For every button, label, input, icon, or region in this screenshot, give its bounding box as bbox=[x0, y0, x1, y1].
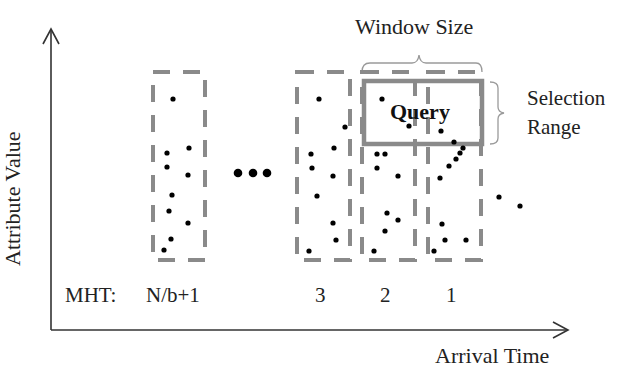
data-point bbox=[382, 151, 387, 156]
data-point bbox=[161, 247, 166, 252]
data-point bbox=[170, 96, 175, 101]
data-point bbox=[330, 220, 335, 225]
data-point bbox=[442, 237, 447, 242]
data-point bbox=[314, 193, 319, 198]
data-point bbox=[342, 124, 347, 129]
data-point bbox=[185, 172, 190, 177]
data-point bbox=[185, 220, 190, 225]
mht-bucket-box bbox=[297, 72, 350, 260]
data-point bbox=[316, 96, 321, 101]
window-size-bracket bbox=[362, 55, 482, 72]
data-point bbox=[169, 192, 174, 197]
data-point bbox=[164, 164, 169, 169]
y-axis-label: Attribute Value bbox=[2, 131, 24, 266]
mht-label-2: 2 bbox=[380, 285, 391, 306]
window-size-label: Window Size bbox=[355, 16, 473, 38]
data-point bbox=[331, 145, 336, 150]
data-point bbox=[431, 248, 436, 253]
data-point bbox=[308, 151, 313, 156]
data-point bbox=[395, 173, 400, 178]
mht-prefix-label: MHT: bbox=[65, 285, 116, 306]
selection-range-label-line1: Selection bbox=[527, 88, 605, 109]
diagram-canvas bbox=[0, 0, 628, 382]
mht-label-3: 3 bbox=[315, 285, 326, 306]
data-point bbox=[374, 165, 379, 170]
data-point bbox=[330, 173, 335, 178]
selection-range-bracket bbox=[490, 82, 504, 144]
mht-label-1: 1 bbox=[446, 285, 457, 306]
data-point bbox=[463, 237, 468, 242]
x-axis bbox=[51, 322, 568, 338]
query-label: Query bbox=[390, 101, 450, 123]
data-point bbox=[438, 128, 443, 133]
data-point bbox=[439, 221, 444, 226]
data-point bbox=[309, 165, 314, 170]
mht-label-n-b-plus-1: N/b+1 bbox=[146, 285, 200, 306]
data-point bbox=[166, 208, 171, 213]
data-point bbox=[333, 237, 338, 242]
x-axis-label: Arrival Time bbox=[435, 345, 549, 367]
mht-bucket-box bbox=[153, 72, 205, 260]
data-point bbox=[451, 139, 456, 144]
data-point bbox=[306, 248, 311, 253]
data-point bbox=[437, 175, 442, 180]
data-points bbox=[161, 96, 522, 253]
data-point bbox=[395, 217, 400, 222]
data-point bbox=[446, 163, 451, 168]
data-point bbox=[374, 151, 379, 156]
data-point bbox=[168, 236, 173, 241]
data-point bbox=[371, 248, 376, 253]
data-point bbox=[460, 145, 465, 150]
data-point bbox=[496, 194, 501, 199]
data-point bbox=[457, 150, 462, 155]
data-point bbox=[406, 123, 411, 128]
data-point bbox=[517, 203, 522, 208]
data-point bbox=[186, 145, 191, 150]
y-axis bbox=[43, 29, 59, 330]
data-point bbox=[382, 228, 387, 233]
data-point bbox=[164, 150, 169, 155]
ellipsis-icon bbox=[234, 169, 272, 178]
data-point bbox=[384, 210, 389, 215]
data-point bbox=[453, 156, 458, 161]
selection-range-label-line2: Range bbox=[527, 117, 581, 138]
data-point bbox=[379, 96, 384, 101]
